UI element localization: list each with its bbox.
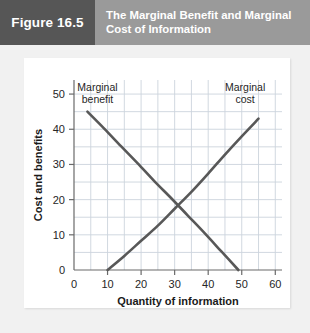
x-tick-label: 30: [169, 278, 181, 290]
figure-container: Figure 16.5 The Marginal Benefit and Mar…: [0, 0, 310, 333]
figure-header-band: Figure 16.5 The Marginal Benefit and Mar…: [0, 0, 310, 45]
axis-ticks: [69, 94, 275, 275]
curve-annotations: MarginalbenefitMarginalcost: [77, 81, 265, 105]
annotation-marginal-benefit-line-1: Marginal: [77, 81, 117, 93]
y-axis-title: Cost and benefits: [32, 129, 44, 221]
figure-number-label: Figure 16.5: [11, 15, 83, 30]
x-axis-title: Quantity of information: [117, 295, 239, 307]
y-tick-label: 10: [53, 229, 65, 241]
annotation-marginal-cost-line-1: Marginal: [225, 81, 265, 93]
grid-lines: [74, 80, 282, 270]
y-tick-label: 20: [53, 194, 65, 206]
y-tick-label: 0: [59, 264, 65, 276]
figure-title-line-1: The Marginal Benefit and Marginal: [106, 9, 291, 21]
chart-svg: 010203040500102030405060 Marginalbenefit…: [24, 58, 290, 308]
chart-plot: 010203040500102030405060 Marginalbenefit…: [24, 58, 290, 308]
figure-title: The Marginal Benefit and Marginal Cost o…: [106, 9, 291, 36]
x-tick-label: 20: [135, 278, 147, 290]
curve-marginal-cost: [108, 119, 259, 270]
axis-lines: [74, 80, 282, 270]
axis-tick-labels: 010203040500102030405060: [53, 88, 282, 290]
x-tick-label: 10: [101, 278, 113, 290]
chart-card: 010203040500102030405060 Marginalbenefit…: [24, 58, 290, 308]
y-tick-label: 30: [53, 158, 65, 170]
annotation-marginal-cost-line-2: cost: [235, 93, 254, 105]
figure-title-block: The Marginal Benefit and Marginal Cost o…: [95, 0, 310, 45]
x-tick-label: 0: [71, 278, 77, 290]
data-curves: [87, 112, 258, 270]
y-tick-label: 50: [53, 88, 65, 100]
curve-marginal-benefit: [87, 112, 238, 270]
x-tick-label: 50: [236, 278, 248, 290]
annotation-marginal-benefit-line-2: benefit: [82, 93, 114, 105]
figure-title-line-2: Cost of Information: [106, 23, 211, 35]
x-tick-label: 40: [202, 278, 214, 290]
figure-number-block: Figure 16.5: [0, 0, 95, 45]
y-tick-label: 40: [53, 123, 65, 135]
x-tick-label: 60: [269, 278, 281, 290]
